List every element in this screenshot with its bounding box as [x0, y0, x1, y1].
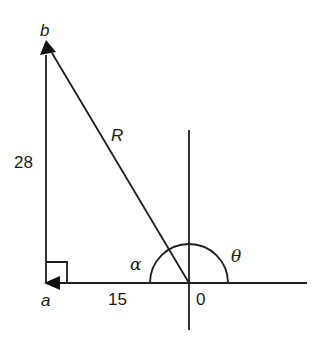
- label-a: a: [41, 291, 50, 310]
- arrowhead-b-icon: [40, 40, 56, 55]
- label-alpha: α: [130, 254, 142, 274]
- label-origin: 0: [196, 290, 205, 309]
- label-15: 15: [108, 290, 127, 309]
- label-28: 28: [14, 153, 33, 172]
- label-r: R: [111, 126, 123, 145]
- resultant-r: [52, 53, 189, 283]
- label-b: b: [40, 21, 49, 40]
- vector-diagram: b a 28 15 R 0 α θ: [0, 0, 327, 342]
- label-theta: θ: [231, 246, 241, 266]
